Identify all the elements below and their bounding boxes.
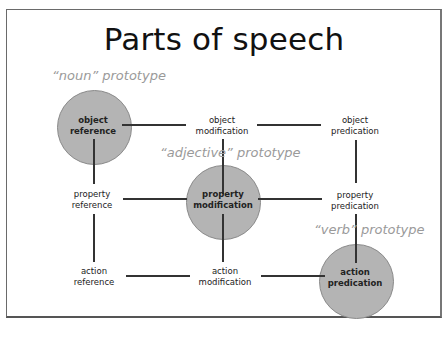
slide-title: Parts of speech — [0, 21, 448, 57]
adjective-prototype-label: “adjective” prototype — [160, 145, 301, 160]
node-property-reference: property reference — [47, 189, 137, 211]
node-property-modification: property modification — [178, 189, 268, 211]
verb-prototype-label: “verb” prototype — [314, 222, 425, 237]
connector-propmod-actmod — [222, 214, 224, 262]
connector-propref-actref — [93, 214, 95, 262]
node-action-predication: action predication — [310, 267, 400, 289]
connector-objref-propref — [93, 139, 95, 184]
node-object-predication: object predication — [310, 115, 400, 137]
noun-prototype-label: “noun” prototype — [52, 68, 166, 83]
node-object-reference: object reference — [48, 115, 138, 137]
node-action-modification: action modification — [180, 266, 270, 288]
node-property-predication: property predication — [310, 190, 400, 212]
node-object-modification: object modification — [177, 115, 267, 137]
node-action-reference: action reference — [49, 266, 139, 288]
connector-objpred-proppred — [355, 140, 357, 183]
